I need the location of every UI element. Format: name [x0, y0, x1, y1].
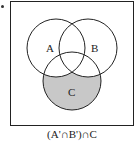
label-c: C [68, 86, 75, 98]
label-b: B [91, 42, 98, 54]
venn-diagram: A B C [0, 0, 134, 142]
label-a: A [46, 42, 54, 54]
diagram-caption: (A'∩B')∩C [10, 128, 134, 140]
